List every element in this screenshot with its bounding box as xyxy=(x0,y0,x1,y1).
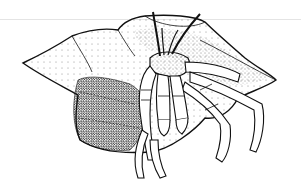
hermit-crab-illustration xyxy=(0,0,301,196)
illustration-frame xyxy=(0,0,301,196)
